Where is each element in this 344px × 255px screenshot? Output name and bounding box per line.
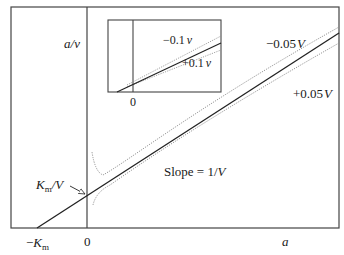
inset-frame	[108, 20, 221, 92]
inset-lower-label: +0.1v	[182, 56, 212, 70]
neg-km-tick: −Km	[26, 235, 49, 252]
inset-upper-label: −0.1v	[163, 33, 193, 47]
intercept-label: Km/V	[35, 177, 65, 194]
y-axis-label: a/v	[64, 36, 80, 51]
slope-label: Slope = 1/V	[164, 164, 228, 179]
x-axis-label: a	[282, 234, 289, 249]
intercept-arrow	[70, 186, 85, 194]
zero-tick: 0	[84, 234, 91, 249]
inset: −0.1v +0.1v	[108, 20, 221, 92]
lower-curve-label: +0.05V	[293, 86, 334, 101]
upper-curve-label: −0.05V	[266, 36, 307, 51]
chart: −0.1v +0.1v 0 a/v a −Km 0 Km/V Slope = 1…	[0, 0, 344, 255]
inset-zero-tick: 0	[130, 95, 136, 109]
